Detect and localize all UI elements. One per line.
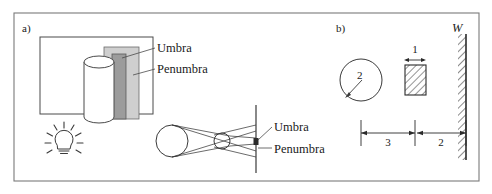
panel-b-tag: b)	[336, 22, 346, 35]
figure-container: a) Umbra Penumbra	[0, 0, 492, 194]
umbra-label-bottom: Umbra	[274, 120, 309, 134]
ray-source-circle	[156, 125, 188, 157]
penumbra-label-bottom: Penumbra	[274, 142, 325, 156]
umbra-label-top: Umbra	[157, 41, 192, 55]
wall-label: W	[452, 21, 464, 35]
screen-umbra-spot	[254, 138, 259, 145]
dimension-3-label: 3	[385, 136, 391, 148]
physics-shadow-figure: a) Umbra Penumbra	[0, 0, 492, 194]
circle-label: 2	[357, 69, 363, 81]
cylinder-object-icon	[84, 56, 114, 123]
block-dimension-label: 1	[412, 43, 418, 55]
panel-a-tag: a)	[22, 22, 31, 35]
wall-hatching	[458, 34, 466, 160]
penumbra-label-top: Penumbra	[157, 62, 208, 76]
hatched-block-icon	[405, 65, 426, 95]
dimension-2-label: 2	[438, 136, 444, 148]
